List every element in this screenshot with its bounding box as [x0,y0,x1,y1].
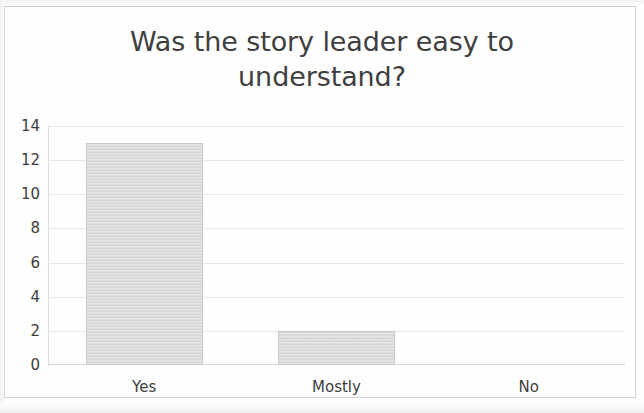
gridline [48,126,625,127]
x-axis-tick-label: Yes [48,379,240,395]
chart-page: Was the story leader easy to understand?… [0,0,644,413]
scan-edge-bottom [0,403,644,413]
y-axis-tick-label: 0 [6,358,40,373]
x-axis-tick-label: No [433,379,625,395]
y-axis-tick-label: 6 [6,256,40,271]
y-axis-tick-label: 8 [6,221,40,236]
y-axis-tick-label: 2 [6,324,40,339]
y-axis-tick-label: 10 [6,187,40,202]
bar-mostly [278,331,395,365]
plot-area [48,126,625,365]
y-axis-tick-label: 12 [6,153,40,168]
y-axis-tick-label: 14 [6,119,40,134]
bar-yes [86,143,203,365]
x-axis-tick-label: Mostly [240,379,432,395]
chart-title-line-1: Was the story leader easy to [0,24,644,59]
chart-title: Was the story leader easy to understand? [0,24,644,94]
chart-title-line-2: understand? [0,59,644,94]
y-axis-tick-label: 4 [6,290,40,305]
scan-edge-top [0,0,644,6]
